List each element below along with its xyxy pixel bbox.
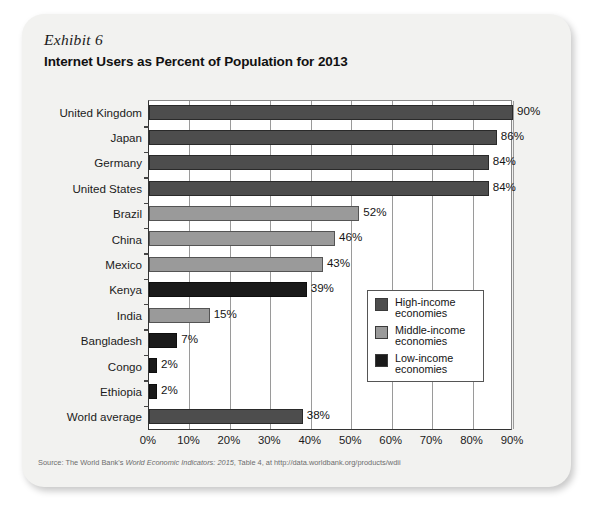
bar-row: 46% [149,228,513,253]
bar [149,130,497,145]
category-label: Congo [22,361,142,373]
x-axis-tick-label: 30% [258,434,281,446]
legend-label-line2: economies [395,336,465,347]
exhibit-card: Exhibit 6 Internet Users as Percent of P… [22,14,571,487]
bar-value-label: 86% [501,129,524,142]
x-axis-tick-label: 0% [140,434,156,446]
bar-value-label: 15% [214,307,237,320]
bar [149,105,513,120]
bar-value-label: 43% [327,256,350,269]
x-axis-tick-label: 80% [460,434,483,446]
bar-value-label: 46% [339,230,362,243]
bar-row: 90% [149,101,513,126]
source-prefix: Source: The World Bank's [38,458,125,467]
gridline [513,101,514,429]
bar-value-label: 39% [311,281,334,294]
category-label: United States [22,183,142,195]
x-axis-tick-label: 20% [218,434,241,446]
category-label: United Kingdom [22,107,142,119]
category-label: Bangladesh [22,335,142,347]
legend-item: Low-incomeeconomies [375,353,477,376]
chart-legend: High-incomeeconomiesMiddle-incomeeconomi… [367,290,484,382]
chart-plot-wrapper: United KingdomJapanGermanyUnited StatesB… [22,92,571,452]
legend-label-line2: economies [395,364,453,375]
category-label: China [22,234,142,246]
legend-label-line2: economies [395,308,456,319]
bar-row: 2% [149,380,513,405]
exhibit-number: Exhibit 6 [44,31,103,49]
legend-label: High-incomeeconomies [395,297,456,320]
bar-row: 52% [149,203,513,228]
bar-row: 86% [149,126,513,151]
category-label: Mexico [22,259,142,271]
bar [149,206,359,221]
category-label: India [22,310,142,322]
bar [149,181,489,196]
bar-value-label: 38% [307,408,330,421]
x-axis-tick-label: 70% [420,434,443,446]
bar [149,358,157,373]
x-axis-tick-label: 50% [339,434,362,446]
source-publication-title: World Economic Indicators: 2015 [125,458,233,467]
x-axis-tick-label: 60% [379,434,402,446]
bar-value-label: 84% [493,154,516,167]
bar [149,333,177,348]
bar [149,308,210,323]
category-label: Kenya [22,284,142,296]
category-label: Ethiopia [22,386,142,398]
x-axis-tick-label: 90% [501,434,524,446]
legend-label: Middle-incomeeconomies [395,325,465,348]
source-suffix: , Table 4, at http://data.worldbank.org/… [234,458,401,467]
bar [149,384,157,399]
x-axis-tick-label: 10% [177,434,200,446]
value-axis-labels: 0%10%20%30%40%50%60%70%80%90% [148,434,512,452]
bar-row: 84% [149,152,513,177]
bar-row: 43% [149,253,513,278]
bar [149,282,307,297]
legend-swatch-icon [375,298,388,311]
chart-title: Internet Users as Percent of Population … [44,54,348,69]
bar-value-label: 90% [517,104,540,117]
legend-swatch-icon [375,354,388,367]
x-axis-tick-label: 40% [298,434,321,446]
legend-swatch-icon [375,326,388,339]
bar [149,257,323,272]
category-label: World average [22,411,142,423]
category-label: Germany [22,157,142,169]
source-note: Source: The World Bank's World Economic … [38,458,401,467]
bar-value-label: 2% [161,357,178,370]
category-label: Brazil [22,208,142,220]
bar-value-label: 52% [363,205,386,218]
legend-item: Middle-incomeeconomies [375,325,477,348]
legend-item: High-incomeeconomies [375,297,477,320]
category-axis-labels: United KingdomJapanGermanyUnited StatesB… [22,100,142,430]
bar [149,155,489,170]
bar-value-label: 2% [161,383,178,396]
category-label: Japan [22,132,142,144]
bar-row: 84% [149,177,513,202]
bar [149,231,335,246]
bar-row: 38% [149,406,513,431]
legend-label: Low-incomeeconomies [395,353,453,376]
bar-value-label: 7% [181,332,198,345]
bar [149,409,303,424]
bar-value-label: 84% [493,180,516,193]
